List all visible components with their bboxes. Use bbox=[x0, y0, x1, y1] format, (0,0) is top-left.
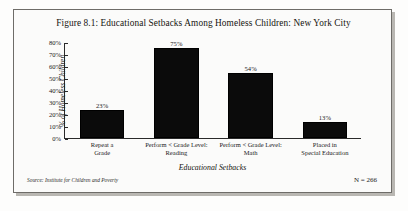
figure-card: Figure 8.1: Educational Setbacks Among H… bbox=[13, 9, 392, 193]
bar-value-label: 54% bbox=[228, 65, 273, 72]
bar-value-label: 23% bbox=[80, 102, 125, 109]
plot-area: % of Homeless Children 80%70%60%50%40%30… bbox=[64, 43, 361, 139]
y-axis-tick-label: 40% bbox=[49, 87, 61, 94]
y-axis-tick-label: 60% bbox=[49, 63, 61, 70]
sample-size-note: N = 266 bbox=[354, 176, 377, 184]
y-axis-tick-label: 50% bbox=[49, 75, 61, 82]
x-axis-category-line: Placed in bbox=[281, 141, 370, 149]
x-axis-title: Educational Setbacks bbox=[64, 163, 361, 172]
bar bbox=[154, 48, 199, 138]
bar bbox=[228, 73, 273, 138]
bar-group: 23%Repeat aGrade bbox=[80, 43, 125, 138]
y-axis-tick-label: 80% bbox=[49, 39, 61, 46]
plot-wrapper: % of Homeless Children 80%70%60%50%40%30… bbox=[14, 10, 393, 194]
bar bbox=[80, 110, 125, 138]
y-axis-tick-label: 20% bbox=[49, 111, 61, 118]
x-axis-category-line: Special Education bbox=[281, 149, 370, 157]
y-axis-tick-label: 30% bbox=[49, 99, 61, 106]
x-axis-category-label: Placed inSpecial Education bbox=[281, 141, 370, 158]
bar-value-label: 75% bbox=[154, 40, 199, 47]
source-note: Source: Institute for Children and Pover… bbox=[27, 177, 118, 183]
y-axis-tick-label: 70% bbox=[49, 51, 61, 58]
figure-root: Figure 8.1: Educational Setbacks Among H… bbox=[0, 0, 408, 211]
bar-value-label: 13% bbox=[303, 114, 348, 121]
bar-series: 23%Repeat aGrade75%Perform < Grade Level… bbox=[65, 43, 361, 138]
y-axis-tick-label: 10% bbox=[49, 123, 61, 130]
bar bbox=[303, 122, 348, 138]
bar-group: 75%Perform < Grade Level:Reading bbox=[154, 43, 199, 138]
bar-group: 54%Perform < Grade Level:Math bbox=[228, 43, 273, 138]
bar-group: 13%Placed inSpecial Education bbox=[303, 43, 348, 138]
